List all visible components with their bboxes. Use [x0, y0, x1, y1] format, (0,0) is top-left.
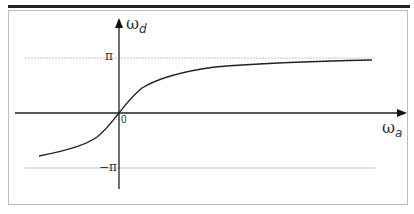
diagram-canvas — [0, 0, 414, 214]
x-axis-symbol: ω — [382, 118, 395, 137]
origin-label: 0 — [121, 114, 127, 125]
y-axis-subscript: d — [139, 22, 147, 36]
response-curve — [39, 60, 372, 156]
x-axis-label: ωa — [382, 118, 402, 137]
y-axis-symbol: ω — [126, 14, 139, 33]
pi-tick-label: π — [105, 49, 113, 63]
neg-pi-tick-label: −π — [99, 160, 117, 174]
y-axis-label: ωd — [126, 14, 147, 33]
x-axis-subscript: a — [395, 126, 402, 140]
